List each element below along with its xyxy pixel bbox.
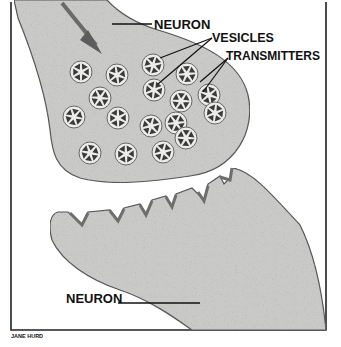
label-neuron-bottom: NEURON (66, 291, 122, 306)
synapse-diagram: NEURON VESICLES TRANSMITTERS NEURON JANE… (0, 0, 341, 347)
vesicle (152, 141, 174, 163)
label-vesicles: VESICLES (212, 31, 274, 45)
vesicle (107, 107, 129, 129)
vesicle (204, 102, 226, 124)
vesicle (70, 61, 92, 83)
vesicle (170, 90, 192, 112)
vesicle (79, 142, 101, 164)
vesicle (106, 64, 128, 86)
vesicle (89, 87, 111, 109)
artist-credit: JANE HURD (11, 333, 43, 339)
label-neuron-top: NEURON (154, 17, 210, 32)
vesicle (140, 115, 162, 137)
vesicle (175, 127, 197, 149)
label-transmitters: TRANSMITTERS (226, 49, 320, 63)
vesicle (143, 79, 165, 101)
vesicle (115, 143, 137, 165)
vesicle (63, 106, 85, 128)
